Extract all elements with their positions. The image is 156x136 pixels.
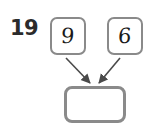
arrow-right-to-answer — [99, 58, 120, 83]
problem-number: 19 — [10, 18, 38, 39]
operand-right-digit: 6 — [118, 26, 133, 47]
operand-box-left: 9 — [50, 17, 86, 55]
answer-box[interactable] — [64, 86, 126, 123]
operand-left-digit: 9 — [61, 26, 76, 47]
worksheet-problem: 19 9 6 — [0, 0, 156, 136]
operand-box-right: 6 — [107, 17, 143, 55]
arrow-left-to-answer — [66, 58, 90, 83]
